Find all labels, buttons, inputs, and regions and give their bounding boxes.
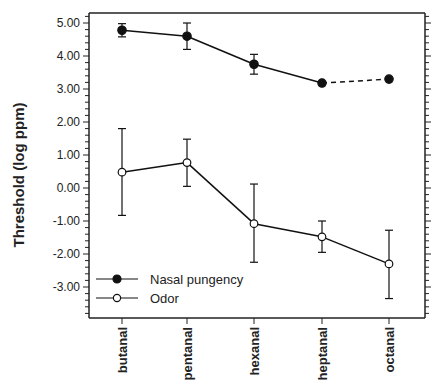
y-tick-label: 2.00 xyxy=(57,115,81,129)
y-tick-label: -1.00 xyxy=(53,214,81,228)
filled-circle-marker xyxy=(318,79,326,87)
x-tick-label: pentanal xyxy=(180,327,195,380)
x-tick-label: octanal xyxy=(382,327,397,373)
series-line xyxy=(187,36,254,64)
legend-label: Odor xyxy=(150,291,180,306)
x-tick-label: butanal xyxy=(115,327,130,373)
open-circle-marker xyxy=(118,168,126,176)
y-axis: 5.004.003.002.001.000.00-1.00-2.00-3.00 xyxy=(53,16,431,313)
y-tick-label: 0.00 xyxy=(57,181,81,195)
y-tick-label: 5.00 xyxy=(57,16,81,30)
chart: 5.004.003.002.001.000.00-1.00-2.00-3.00 … xyxy=(0,0,441,384)
filled-circle-marker xyxy=(385,75,393,83)
x-axis: butanalpentanalhexanalheptanaloctanal xyxy=(115,318,397,380)
filled-circle-marker xyxy=(183,32,191,40)
y-tick-label: -2.00 xyxy=(53,247,81,261)
y-tick-label: -3.00 xyxy=(53,280,81,294)
plot-frame xyxy=(89,13,425,318)
series-line xyxy=(122,30,187,36)
series-layer xyxy=(118,23,393,299)
open-circle-marker xyxy=(318,233,326,241)
open-circle-marker xyxy=(385,260,393,268)
legend-label: Nasal pungency xyxy=(150,272,244,287)
x-tick-label: heptanal xyxy=(315,327,330,380)
series-line xyxy=(322,237,389,264)
series-line xyxy=(122,163,187,173)
open-circle-marker xyxy=(250,220,258,228)
x-tick-label: hexanal xyxy=(247,327,262,375)
series-line xyxy=(254,224,322,237)
open-circle-marker xyxy=(183,159,191,167)
series-line xyxy=(254,64,322,83)
legend: Nasal pungencyOdor xyxy=(96,272,244,306)
legend-filled-marker xyxy=(113,275,121,283)
legend-open-marker xyxy=(113,294,120,301)
y-tick-label: 1.00 xyxy=(57,148,81,162)
y-tick-label: 4.00 xyxy=(57,49,81,63)
series-line xyxy=(187,163,254,224)
y-tick-label: 3.00 xyxy=(57,82,81,96)
filled-circle-marker xyxy=(250,60,258,68)
series-line xyxy=(322,79,389,83)
y-axis-label: Threshold (log ppm) xyxy=(10,103,27,248)
filled-circle-marker xyxy=(118,26,126,34)
